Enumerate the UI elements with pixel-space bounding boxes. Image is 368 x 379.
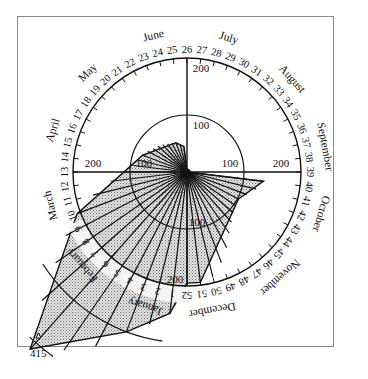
tick-week-35 [284,119,288,121]
ring-200-bottom-label: 200 [167,273,184,285]
week-label: 16 [65,122,79,136]
ring-100-top-label: 100 [193,119,210,131]
tick-week-32 [259,87,262,91]
week-label: 17 [71,108,86,122]
week-label: 46 [261,256,276,271]
tick-week-28 [213,61,214,66]
week-label: 13 [59,167,70,178]
tick-week-23 [147,65,149,70]
tick-week-40 [295,185,300,186]
week-label: 25 [166,44,178,56]
tick-week-19 [102,96,106,99]
tick-week-37 [293,145,298,146]
tick-week-16 [80,132,85,134]
month-label-may: May [76,60,100,84]
tick-week-49 [226,274,228,279]
month-label-december: December [188,301,237,321]
ring-100-bottom-label: 100 [189,216,206,228]
tick-week-22 [134,71,136,75]
week-label: 50 [210,285,223,298]
month-label-april: April [43,117,63,144]
week-label: 47 [249,266,264,281]
tick-week-30 [238,71,240,75]
tick-week-17 [86,119,90,121]
week-label: 29 [224,50,238,64]
ring-200-top-label: 200 [193,62,210,74]
tick-week-38 [295,158,300,159]
week-label: 38 [303,151,315,163]
week-label: 24 [151,46,165,59]
week-label: 35 [289,108,304,122]
week-label: 31 [249,63,264,78]
week-label: 45 [271,246,286,261]
tick-week-48 [238,269,240,273]
week-label: 20 [98,72,113,87]
polar-chart: 1234567891011121314151617181920212223242… [0,0,368,379]
ring-100-left-label: 100 [136,157,153,169]
tick-week-21 [122,78,125,82]
week-label: 22 [123,56,137,71]
tick-week-41 [293,198,298,199]
week-label: 43 [289,222,304,236]
week-label: 19 [87,83,102,98]
week-label: 33 [271,83,286,98]
week-label: 21 [110,63,125,78]
ring-200-left-label: 200 [85,157,102,169]
week-label: 41 [300,195,313,208]
tick-week-15 [76,145,81,146]
week-label: 44 [280,234,295,250]
tick-week-45 [269,244,273,247]
tick-week-25 [173,59,174,64]
tick-week-51 [200,280,201,285]
week-label: 51 [196,288,208,300]
week-label: 37 [300,136,313,149]
week-label: 34 [281,95,296,111]
week-label: 14 [59,151,71,163]
week-label: 49 [224,280,238,294]
week-label: 30 [237,56,251,71]
ring-200-right-label: 200 [273,157,290,169]
week-label: 11 [61,195,74,207]
tick-week-24 [160,61,161,66]
week-label: 42 [295,209,309,223]
tick-week-31 [249,78,252,82]
tick-week-42 [289,211,294,213]
week-label: 36 [295,122,309,136]
tick-week-29 [226,65,228,70]
peak-value-label: 415 [30,347,47,359]
week-label: 39 [305,167,316,178]
week-label: 48 [237,274,251,289]
tick-week-20 [111,87,114,91]
tick-week-44 [277,234,281,237]
tick-week-36 [289,132,294,134]
week-label: 27 [196,44,208,56]
week-label: 23 [137,50,151,64]
tick-week-46 [259,254,262,258]
tick-week-18 [93,107,97,110]
month-label-september: September [314,121,336,172]
tick-week-43 [284,223,288,225]
month-label-july: July [218,29,240,47]
center-dot [184,169,191,176]
ring-100-right-label: 100 [222,157,239,169]
month-label-june: June [142,27,165,44]
month-label-march: March [41,189,60,221]
tick-week-11 [76,198,81,199]
week-label: 18 [78,95,93,110]
tick-week-33 [269,96,273,99]
week-label: 52 [182,290,193,301]
week-label: 12 [59,181,71,193]
tick-week-12 [74,185,79,186]
week-label: 26 [182,44,193,55]
week-label: 40 [303,181,315,193]
month-label-october: October [310,194,333,233]
tick-week-14 [74,158,79,159]
tick-week-34 [277,107,281,110]
tick-week-47 [249,262,252,266]
week-label: 32 [261,72,276,87]
tick-week-50 [213,278,214,283]
week-label: 15 [61,136,74,149]
week-label: 10 [65,209,79,223]
week-label: 28 [210,46,223,59]
